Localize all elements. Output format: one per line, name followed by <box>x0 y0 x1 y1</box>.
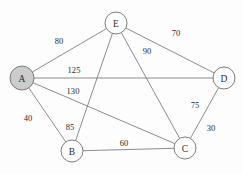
node-label-d: D <box>221 74 228 84</box>
edge-weight-b-c: 60 <box>120 139 129 148</box>
graph-figure: ABCDE 8012513040856090707530 <box>0 0 243 174</box>
edge-weight-b-e: 85 <box>66 123 75 132</box>
edge-weight-c-d: 75 <box>191 101 200 110</box>
graph-edge-b-e <box>76 33 113 140</box>
edge-weight-a-e: 80 <box>55 37 64 46</box>
graph-edge-d-e <box>126 28 214 73</box>
node-label-a: A <box>19 74 26 84</box>
graph-edge-a-b <box>29 88 66 142</box>
edge-weight-c-d-alt: 30 <box>207 124 216 133</box>
edge-weight-a-d: 125 <box>67 66 80 75</box>
graph-node-a[interactable]: A <box>10 66 34 90</box>
edges-layer <box>29 28 219 151</box>
graph-node-b[interactable]: B <box>61 140 83 162</box>
graph-node-e[interactable]: E <box>105 12 127 34</box>
edge-weight-d-e: 70 <box>172 29 181 38</box>
edge-weight-a-c: 130 <box>66 87 79 96</box>
graph-edge-b-c <box>83 148 174 150</box>
graph-canvas: ABCDE <box>0 0 243 174</box>
graph-node-d[interactable]: D <box>213 67 235 89</box>
node-label-c: C <box>182 144 188 154</box>
node-label-b: B <box>69 147 75 157</box>
graph-node-c[interactable]: C <box>174 137 196 159</box>
edge-weight-c-e: 90 <box>143 47 152 56</box>
node-label-e: E <box>113 19 119 29</box>
edge-weight-a-b: 40 <box>24 114 33 123</box>
